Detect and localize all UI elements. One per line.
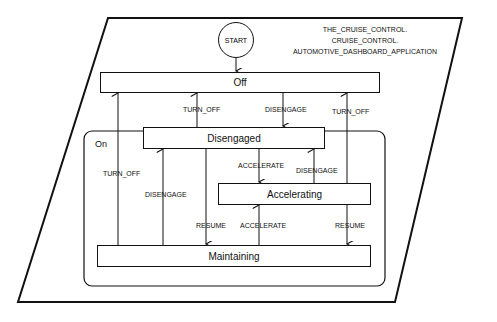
start-label: START <box>225 37 247 44</box>
state-off-label: Off <box>233 77 246 88</box>
transition-label-accelerate-maintaining: ACCELERATE <box>240 222 286 229</box>
title-line-2: CRUISE_CONTROL. <box>293 35 437 46</box>
transition-label-disengage-off: DISENGAGE <box>265 106 307 113</box>
state-maintaining-label: Maintaining <box>208 251 259 262</box>
start-node: START <box>218 22 254 58</box>
title-line-3: AUTOMOTIVE_DASHBOARD_APPLICATION <box>293 46 437 57</box>
transition-label-resume-accelerating: RESUME <box>335 222 365 229</box>
transition-label-disengage-maintaining: DISENGAGE <box>145 191 187 198</box>
state-off: Off <box>100 72 380 93</box>
state-disengaged-label: Disengaged <box>207 133 260 144</box>
diagram-title: THE_CRUISE_CONTROL. CRUISE_CONTROL. AUTO… <box>293 24 437 57</box>
on-composite-label: On <box>95 139 107 149</box>
state-maintaining: Maintaining <box>97 245 371 267</box>
transition-label-accelerate-disengaged: ACCELERATE <box>238 162 284 169</box>
transition-label-turn-off-accelerating: TURN_OFF <box>332 108 369 115</box>
transition-label-turn-off-disengaged: TURN_OFF <box>183 106 220 113</box>
state-disengaged: Disengaged <box>143 127 325 149</box>
state-accelerating-label: Accelerating <box>267 189 322 200</box>
transition-label-turn-off-maintaining: TURN_OFF <box>103 170 140 177</box>
state-accelerating: Accelerating <box>218 183 371 205</box>
title-line-1: THE_CRUISE_CONTROL. <box>293 24 437 35</box>
transition-label-resume-disengaged: RESUME <box>196 222 226 229</box>
transition-label-disengage-accelerating: DISENGAGE <box>296 167 338 174</box>
